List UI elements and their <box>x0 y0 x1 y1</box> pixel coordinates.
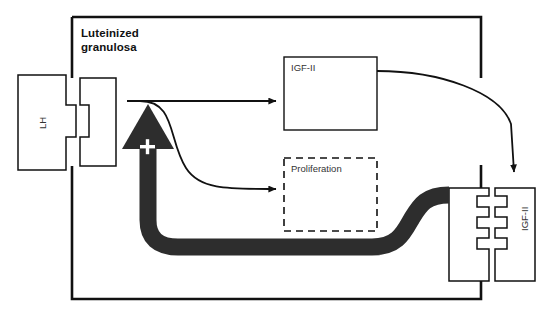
igf2-ligand-shape <box>495 188 535 281</box>
igf2-receptor-shape <box>449 188 489 281</box>
lh-receptor-shape <box>80 78 116 166</box>
diagram-canvas: Luteinizedgranulosa IGF-II Proliferation… <box>0 0 553 318</box>
lh-ligand-label: LH <box>37 117 48 129</box>
igf2-ligand-label: IGF-II <box>519 207 530 231</box>
cell-title: Luteinizedgranulosa <box>81 26 139 55</box>
cell-title-line2: granulosa <box>81 41 137 53</box>
cell-membrane <box>72 17 481 299</box>
igf2-secretion-arrow <box>377 71 514 172</box>
cell-title-line1: Luteinized <box>81 27 139 39</box>
igf2-product-label: IGF-II <box>291 62 315 73</box>
proliferation-label: Proliferation <box>291 163 342 174</box>
